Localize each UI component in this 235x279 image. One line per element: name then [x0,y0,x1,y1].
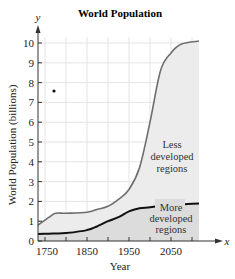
x-axis-variable: x [224,235,230,247]
x-axis-label: Year [110,260,131,272]
svg-text:developed: developed [150,151,194,162]
marker-dot [52,89,55,92]
y-tick-label: 6 [29,116,35,128]
y-tick-label: 1 [29,215,35,227]
y-tick-label: 8 [29,77,35,89]
y-axis-arrow-icon [36,25,41,33]
y-tick-label: 4 [29,156,35,168]
y-tick-label: 2 [29,195,35,207]
y-tick-label: 3 [29,176,35,188]
y-tick-label: 0 [29,235,35,247]
chart-canvas: 1750185019502050 012345678910 World Popu… [0,0,235,279]
svg-text:regions: regions [157,163,188,174]
svg-text:Less: Less [162,139,181,150]
y-tick-marks: 012345678910 [23,37,42,247]
x-tick-label: 2050 [160,245,183,257]
y-tick-label: 9 [29,57,35,69]
x-axis-arrow-icon [215,239,223,244]
y-tick-label: 7 [29,96,35,108]
x-tick-label: 1950 [118,245,141,257]
svg-text:regions: regions [156,224,187,235]
x-tick-label: 1850 [76,245,99,257]
svg-text:developed: developed [149,213,193,224]
y-axis-label: World Population (billions) [6,84,19,205]
svg-text:More: More [160,202,183,213]
x-tick-label: 1750 [36,245,59,257]
y-tick-label: 5 [29,136,35,148]
chart-title: World Population [78,7,162,19]
y-axis-variable: y [35,11,41,23]
y-tick-label: 10 [23,37,35,49]
